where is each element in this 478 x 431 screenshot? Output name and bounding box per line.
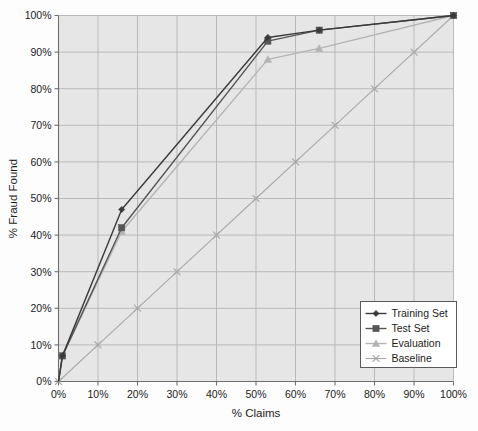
y-axis-title: % Fraud Found: [7, 159, 19, 238]
y-tick-label: 10%: [30, 339, 51, 351]
x-tick-label: 10%: [87, 388, 108, 400]
y-tick-label: 20%: [30, 302, 51, 314]
data-point-square: [373, 325, 379, 331]
x-axis-tick-marks: [59, 382, 454, 386]
x-tick-label: 0%: [51, 388, 66, 400]
y-axis-tick-marks: [55, 16, 59, 382]
chart-container: 0%10%20%30%40%50%60%70%80%90%100% 0%10%2…: [0, 0, 478, 431]
legend-label: Evaluation: [392, 337, 441, 349]
y-tick-label: 50%: [30, 192, 51, 204]
legend-label: Baseline: [392, 352, 432, 364]
x-tick-label: 60%: [285, 388, 306, 400]
x-tick-label: 50%: [245, 388, 266, 400]
x-tick-label: 100%: [440, 388, 467, 400]
x-tick-label: 80%: [364, 388, 385, 400]
y-axis-tick-labels: 0%10%20%30%40%50%60%70%80%90%100%: [25, 9, 52, 387]
x-tick-label: 30%: [166, 388, 187, 400]
y-tick-label: 30%: [30, 266, 51, 278]
y-tick-label: 100%: [25, 9, 52, 21]
x-tick-label: 70%: [324, 388, 345, 400]
y-tick-label: 0%: [36, 375, 51, 387]
data-point-square: [119, 225, 125, 231]
y-tick-label: 80%: [30, 83, 51, 95]
x-tick-label: 40%: [206, 388, 227, 400]
y-tick-label: 90%: [30, 46, 51, 58]
fraud-detection-lift-chart: 0%10%20%30%40%50%60%70%80%90%100% 0%10%2…: [0, 0, 478, 431]
legend-label: Training Set: [392, 307, 448, 319]
x-tick-label: 90%: [403, 388, 424, 400]
x-axis-title: % Claims: [232, 407, 281, 419]
y-tick-label: 70%: [30, 119, 51, 131]
y-tick-label: 60%: [30, 156, 51, 168]
legend-label: Test Set: [392, 322, 430, 334]
y-tick-label: 40%: [30, 229, 51, 241]
x-tick-label: 20%: [127, 388, 148, 400]
x-axis-tick-labels: 0%10%20%30%40%50%60%70%80%90%100%: [51, 388, 467, 400]
chart-legend: Training SetTest SetEvaluationBaseline: [361, 302, 457, 368]
